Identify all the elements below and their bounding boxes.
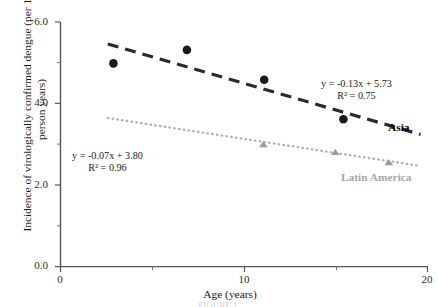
asia-equation-text: y = -0.13x + 5.73 bbox=[321, 78, 392, 89]
x-tick-label-10: 10 bbox=[229, 273, 259, 285]
asia-r2-text: R² = 0.75 bbox=[321, 90, 392, 102]
asia-markers bbox=[109, 46, 348, 124]
y-axis-title-line2: years) bbox=[34, 79, 46, 107]
x-tick-label-0: 0 bbox=[45, 273, 75, 285]
y-axis-title-line1: Incidence of virologically confirmed den… bbox=[21, 0, 47, 232]
latin-equation-text: y = -0.07x + 3.80 bbox=[72, 150, 143, 161]
y-tick-label-0: 0.0 bbox=[18, 259, 48, 271]
asia-equation-annotation: y = -0.13x + 5.73 R² = 0.75 bbox=[321, 78, 392, 102]
series-label-latin-america: Latin America bbox=[341, 171, 412, 183]
figure-caption: FIGURE 1. bbox=[0, 300, 438, 307]
y-axis-minor-ticks bbox=[57, 63, 60, 226]
x-tick-label-20: 20 bbox=[412, 273, 438, 285]
latin-america-trendline bbox=[108, 118, 417, 165]
y-axis-title: Incidence of virologically confirmed den… bbox=[21, 0, 48, 238]
chart-plot-area bbox=[0, 0, 438, 307]
latin-r2-text: R² = 0.96 bbox=[72, 162, 143, 174]
x-axis-title: Age (years) bbox=[150, 288, 310, 300]
latin-america-equation-annotation: y = -0.07x + 3.80 R² = 0.96 bbox=[72, 150, 143, 174]
series-label-asia: Asia bbox=[388, 121, 410, 133]
figure-container: 6.0 4.0 2.0 0.0 0 10 20 Incidence of vir… bbox=[0, 0, 438, 307]
x-axis-major-ticks bbox=[61, 267, 428, 272]
